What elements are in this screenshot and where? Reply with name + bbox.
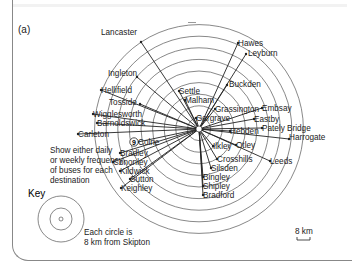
- destination-label: Barnoldswick: [97, 119, 146, 128]
- destination-label: Harrogate: [289, 133, 326, 142]
- destination-label: Shipley: [203, 182, 231, 191]
- svg-text:destination: destination: [50, 176, 90, 185]
- destination-label: Sutton: [130, 175, 154, 184]
- destination-label: Eastby: [254, 115, 280, 124]
- destination-label: Carleton: [78, 130, 109, 139]
- key-title: Key: [28, 188, 45, 199]
- skipton-hub: [196, 126, 202, 132]
- svg-text:Show either daily: Show either daily: [50, 146, 113, 155]
- key-note-line1: Each circle is: [84, 228, 132, 237]
- top-tick: [188, 22, 196, 23]
- key-rings: [38, 196, 84, 242]
- destination-label: Keighley: [121, 184, 153, 193]
- destination-label: Buckden: [229, 80, 261, 89]
- destination-dot: [139, 103, 141, 105]
- scale-label: 8 km: [295, 227, 313, 236]
- destination-label: Bradley: [120, 149, 149, 158]
- destination-label: Leyburn: [248, 49, 278, 58]
- destination-label: Malham: [185, 96, 214, 105]
- key-note-line2: 8 km from Skipton: [84, 238, 150, 247]
- destination-label: Wigglesworth: [93, 110, 143, 119]
- destination-label: Settle: [179, 87, 200, 96]
- panel-label: (a): [18, 24, 30, 35]
- destination-label: Silsden: [211, 164, 238, 173]
- destination-label: Leeds: [270, 157, 292, 166]
- destination-label: Crosshills: [217, 155, 253, 164]
- destination-label: Grassington: [215, 105, 260, 114]
- destination-label: Pately Bridge: [262, 124, 311, 133]
- svg-text:or weekly frequency: or weekly frequency: [50, 156, 124, 165]
- destination-label: Lancaster: [101, 28, 137, 37]
- destination-label: Otley: [236, 141, 256, 150]
- badge-number: 9: [132, 139, 136, 146]
- destination-label: Colne: [138, 138, 160, 147]
- destination-label: Hawes: [238, 39, 263, 48]
- frequency-badge-example: 9: [130, 138, 138, 146]
- scale-bar: [297, 237, 310, 240]
- destination-label: Bradford: [203, 191, 235, 200]
- route-spoke: [141, 42, 199, 129]
- svg-text:of buses for each: of buses for each: [50, 166, 113, 175]
- destination-label: Bingley: [203, 173, 231, 182]
- destination-dot: [140, 41, 142, 43]
- destination-label: Ingleton: [108, 69, 138, 78]
- destination-label: Hellifield: [101, 86, 132, 95]
- destination-dot: [226, 84, 228, 86]
- destination-label: Tosside: [109, 98, 137, 107]
- instruction-text: Show either daily or weekly frequency of…: [50, 146, 124, 185]
- destination-label: Hebden: [230, 127, 259, 136]
- destination-dot: [245, 53, 247, 55]
- destination-label: Gargrave: [196, 114, 231, 123]
- destination-label: Embsay: [262, 104, 292, 113]
- destination-label: Ilkley: [213, 142, 233, 151]
